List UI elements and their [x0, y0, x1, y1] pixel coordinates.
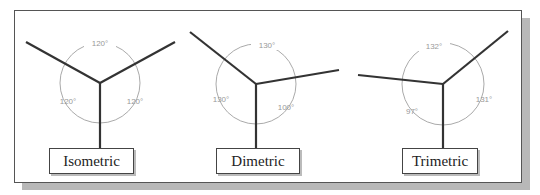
- isometric-diagram: 120° 120° 120°: [26, 38, 175, 148]
- dimetric-angle-top: 130°: [259, 41, 276, 50]
- isometric-angle-top: 120°: [92, 39, 109, 48]
- isometric-angle-right: 120°: [127, 97, 144, 106]
- isometric-angle-left: 120°: [60, 97, 77, 106]
- dimetric-label: Dimetric: [216, 148, 300, 174]
- trimetric-angle-right: 131°: [476, 95, 493, 104]
- dimetric-angle-left: 130°: [213, 95, 230, 104]
- dimetric-angle-right: 100°: [278, 103, 295, 112]
- trimetric-label: Trimetric: [402, 148, 478, 174]
- trimetric-angle-left: 97°: [406, 107, 418, 116]
- trimetric-diagram: 132° 97° 131°: [358, 31, 508, 148]
- isometric-label: Isometric: [49, 148, 134, 174]
- trimetric-angle-top: 132°: [426, 42, 443, 51]
- dimetric-diagram: 130° 130° 100°: [190, 32, 339, 148]
